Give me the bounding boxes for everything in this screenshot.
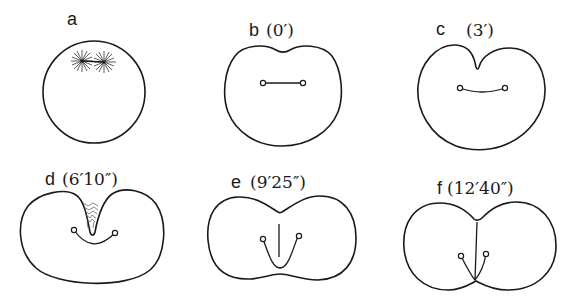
spindle [82,61,104,62]
panel-a: a [43,9,145,143]
panel-f-time: (12′40″) [447,178,514,198]
centrosome-left [457,85,462,90]
centrosome-right [296,233,301,238]
panel-e-time: (9′25″) [250,172,306,192]
panel-b-time: (0′) [266,20,294,40]
centrosome-left [458,253,463,258]
furrow-hatching-icon [83,203,98,228]
panel-c-time: (3′) [466,20,494,40]
centrosome-right [112,230,117,235]
panel-d-time: (6′10″) [62,169,118,189]
cell-outline [225,46,342,146]
centrosome-right [300,80,305,85]
centrosome-left [71,227,76,232]
panel-e: e (9′25″) [208,172,356,280]
centrosome-right [502,85,507,90]
panel-c-letter: c [436,19,445,39]
cell-outline [418,45,545,150]
panel-a-letter: a [67,9,78,29]
midbody [475,222,477,280]
cell-outline [43,41,145,143]
panel-d: d (6′10″) [20,169,163,283]
spindle [461,254,486,280]
panel-b: b (0′) [225,20,342,146]
panel-f: f (12′40″) [404,178,556,290]
spindle [263,236,298,268]
panel-d-letter: d [45,169,55,189]
panel-b-letter: b [249,20,259,40]
spindle [460,88,505,92]
centrosome-left [260,236,265,241]
panel-c: c (3′) [418,19,545,150]
centrosome-left [260,80,265,85]
panel-f-letter: f [437,178,443,198]
cell-outline [404,202,556,290]
cleavage-diagram: a b (0′) [0,0,576,303]
centrosome-right [483,251,488,256]
panel-e-letter: e [231,172,241,192]
